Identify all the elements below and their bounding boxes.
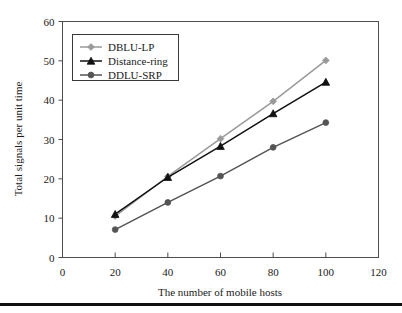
data-series-layer <box>111 57 329 232</box>
y-axis-ticks: 0102030405060 <box>44 16 63 264</box>
data-point-triangle-marker <box>269 110 277 117</box>
legend-label: DDLU-SRP <box>108 69 162 81</box>
x-axis-title: The number of mobile hosts <box>158 286 282 298</box>
y-axis-title: Total signals per unit time <box>12 82 24 197</box>
x-tick-label: 60 <box>215 266 227 278</box>
x-tick-label: 0 <box>60 266 66 278</box>
series-distance-ring <box>111 78 329 217</box>
data-point-circle-marker <box>218 173 224 179</box>
x-axis-ticks: 020406080100120 <box>60 253 388 278</box>
data-point-triangle-marker <box>322 78 330 85</box>
legend-label: DBLU-LP <box>108 41 154 53</box>
series-dblu-lp <box>112 57 329 220</box>
data-point-circle-marker <box>165 200 171 206</box>
data-point-triangle-marker <box>217 142 225 149</box>
data-point-circle-marker <box>88 72 94 78</box>
y-tick-label: 30 <box>44 134 56 146</box>
legend-label: Distance-ring <box>108 55 168 67</box>
figure-container: 0102030405060 020406080100120 Total sign… <box>0 0 402 313</box>
y-tick-label: 10 <box>44 212 56 224</box>
x-tick-label: 20 <box>110 266 122 278</box>
x-tick-label: 40 <box>162 266 174 278</box>
legend: DBLU-LPDistance-ringDDLU-SRP <box>73 35 179 82</box>
data-point-circle-marker <box>323 120 329 126</box>
data-point-circle-marker <box>270 144 276 150</box>
x-tick-label: 100 <box>318 266 335 278</box>
y-tick-label: 50 <box>44 55 56 67</box>
x-tick-label: 80 <box>268 266 280 278</box>
y-tick-label: 20 <box>44 173 56 185</box>
y-tick-label: 40 <box>44 94 56 106</box>
y-tick-label: 60 <box>44 16 56 28</box>
x-tick-label: 120 <box>370 266 387 278</box>
bottom-rule <box>0 303 402 306</box>
line-chart: 0102030405060 020406080100120 Total sign… <box>0 0 402 313</box>
y-tick-label: 0 <box>49 252 55 264</box>
data-point-circle-marker <box>112 227 118 233</box>
